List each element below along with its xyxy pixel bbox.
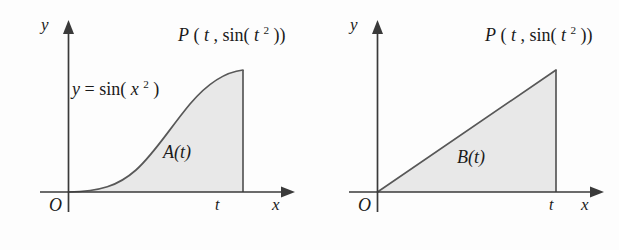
curve-eq-equals: = [85,79,100,99]
point-first-coordinate: t [204,25,209,45]
point-comma: , [214,25,223,45]
curve-eq-exponent: 2 [143,78,149,90]
point-open-paren: ( [501,25,507,45]
point-label-p: P ( t , sin( t 2 )) [178,26,286,44]
point-function-argument: t [254,25,259,45]
point-function: sin( [223,25,250,45]
curve-eq-lhs: y [72,79,80,99]
curve-eq-close-paren: ) [153,79,159,99]
region-label-b: B(t) [457,148,485,166]
x-axis-arrowhead-icon [281,187,295,198]
point-close-parens: )) [274,25,286,45]
x-axis-label: x [581,196,589,213]
point-comma: , [521,25,530,45]
y-axis-arrowhead-icon [63,20,74,34]
x-tick-label-t: t [215,197,219,213]
point-name: P [485,25,496,45]
panel-area-a: y x O t y = sin( x 2 ) P ( t , sin( t 2 … [0,0,310,250]
x-axis-label: x [272,196,280,213]
region-label-a-text: A(t) [163,142,191,162]
curve-equation-label: y = sin( x 2 ) [72,80,159,98]
origin-label: O [358,196,371,214]
region-label-b-text: B(t) [457,147,485,167]
figure-container: y x O t y = sin( x 2 ) P ( t , sin( t 2 … [0,0,619,250]
y-axis-label: y [41,16,49,33]
point-label-p: P ( t , sin( t 2 )) [485,26,593,44]
y-axis-arrowhead-icon [372,20,383,34]
point-open-paren: ( [194,25,200,45]
point-function-argument: t [561,25,566,45]
region-label-a: A(t) [163,143,191,161]
point-function: sin( [530,25,557,45]
point-name: P [178,25,189,45]
curve-eq-function: sin( [99,79,126,99]
y-axis-label: y [350,16,358,33]
point-exponent: 2 [264,24,270,36]
origin-label: O [49,196,62,214]
curve-eq-argument: x [131,79,139,99]
point-close-parens: )) [581,25,593,45]
x-axis-arrowhead-icon [590,187,604,198]
panel-area-b: y x O t P ( t , sin( t 2 )) B(t) [309,0,619,250]
point-exponent: 2 [571,24,577,36]
x-tick-label-t: t [549,197,553,213]
point-first-coordinate: t [511,25,516,45]
